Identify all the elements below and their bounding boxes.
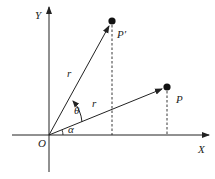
point-p-prime-label: P′ — [116, 28, 127, 40]
rotation-diagram: Y X O P P′ r r θ α — [0, 0, 215, 179]
alpha-label: α — [68, 123, 74, 135]
origin-label: O — [38, 137, 46, 149]
point-p — [163, 83, 170, 90]
radius-lower-label: r — [92, 97, 97, 109]
alpha-arc — [62, 130, 63, 135]
vector-op-prime — [49, 26, 109, 135]
theta-label: θ — [74, 104, 80, 116]
x-axis-label: X — [197, 143, 206, 155]
vector-op — [49, 89, 162, 135]
y-axis-label: Y — [35, 9, 43, 21]
radius-upper-label: r — [67, 67, 72, 79]
point-p-prime — [108, 17, 115, 24]
point-p-label: P — [175, 93, 183, 105]
